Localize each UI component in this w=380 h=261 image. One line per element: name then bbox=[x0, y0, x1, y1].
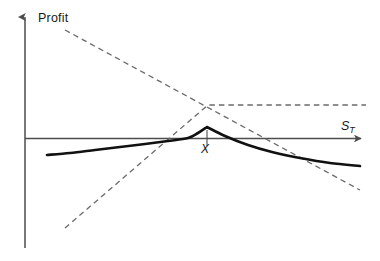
series-short-position-payoff bbox=[65, 30, 360, 190]
profit-payoff-chart: Profit ST X bbox=[0, 0, 380, 261]
strike-price-label: X bbox=[201, 142, 209, 156]
y-axis-label: Profit bbox=[38, 11, 68, 25]
chart-canvas bbox=[0, 0, 380, 261]
series-long-call-payoff bbox=[65, 105, 366, 228]
x-axis-label: ST bbox=[341, 119, 355, 135]
x-axis-subscript: T bbox=[349, 125, 355, 135]
